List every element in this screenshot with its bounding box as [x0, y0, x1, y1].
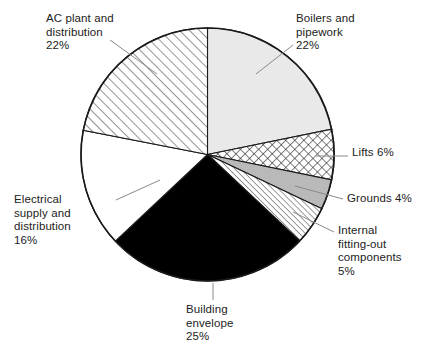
pie-chart-svg: [0, 0, 421, 355]
pie-label-electrical-supply: Electrical supply and distribution 16%: [14, 193, 124, 247]
pie-label-lifts: Lifts 6%: [352, 146, 421, 160]
pie-chart: AC plant and distribution 22% Boilers an…: [0, 0, 421, 355]
pie-label-ac-plant: AC plant and distribution 22%: [46, 12, 166, 53]
pie-label-building-envelope: Building envelope 25%: [186, 303, 296, 344]
pie-label-boilers: Boilers and pipework 22%: [296, 12, 416, 53]
pie-label-grounds: Grounds 4%: [347, 192, 421, 206]
pie-label-internal-fitting-out: Internal fitting-out components 5%: [338, 224, 421, 278]
